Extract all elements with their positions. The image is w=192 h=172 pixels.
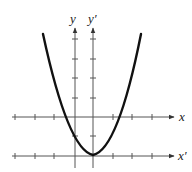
parabola-curve xyxy=(43,34,141,155)
y-axis xyxy=(72,28,78,168)
x-axis-label: x xyxy=(178,109,185,124)
y-prime-axis-label: y′ xyxy=(86,11,97,26)
parabola-translation-diagram: y y′ x x′ xyxy=(0,0,192,172)
x-prime-axis-label: x′ xyxy=(177,148,187,163)
y-prime-axis xyxy=(90,28,96,168)
y-axis-label: y xyxy=(68,11,76,26)
